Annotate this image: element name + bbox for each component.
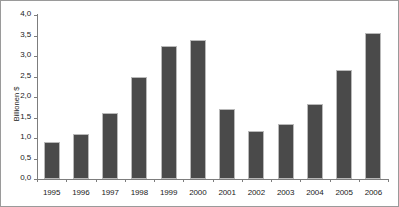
x-axis-tick-mark [213,179,214,182]
x-axis-tick-label-1997: 1997 [96,188,125,197]
bar-slot [154,15,183,179]
bar-1996[interactable] [73,134,89,179]
x-axis-tick-label-2003: 2003 [271,188,300,197]
bar-1997[interactable] [102,113,118,179]
bar-slot [242,15,271,179]
y-axis-tick-label: 3,5 [20,30,31,39]
x-axis-tick-label-1998: 1998 [125,188,154,197]
x-axis-tick-mark [300,179,301,182]
x-axis-tick-label-2002: 2002 [242,188,271,197]
bar-2003[interactable] [278,124,294,179]
bar-slot [66,15,95,179]
x-axis-tick-mark [66,179,67,182]
x-axis-tick-label-2001: 2001 [213,188,242,197]
bar-1995[interactable] [44,142,60,179]
x-axis-tick-mark [271,179,272,182]
bar-slot [359,15,388,179]
x-axis-ticks: 1995199619971998199920002001200220032004… [37,179,389,207]
bar-2002[interactable] [248,131,264,179]
x-axis-tick-label-2006: 2006 [359,188,388,197]
x-axis-tick-mark [359,179,360,182]
bar-slot [271,15,300,179]
bar-slot [213,15,242,179]
x-axis-tick-mark [242,179,243,182]
x-axis-tick-label-1996: 1996 [66,188,95,197]
bar-2005[interactable] [336,70,352,179]
y-axis-tick-label: 2,5 [20,71,31,80]
bar-slot [300,15,329,179]
x-axis-tick-mark [37,179,38,182]
bar-2001[interactable] [219,109,235,179]
x-axis-tick-mark [388,179,389,182]
x-axis-tick-mark [96,179,97,182]
bar-2006[interactable] [365,33,381,179]
y-axis-tick-label: 1,0 [20,132,31,141]
x-axis-tick-mark [154,179,155,182]
bar-slot [125,15,154,179]
y-axis-tick-label: 2,0 [20,91,31,100]
x-axis-tick-label-1999: 1999 [154,188,183,197]
x-axis-tick-mark [183,179,184,182]
x-axis-tick-label-2000: 2000 [183,188,212,197]
x-axis-tick-mark [330,179,331,182]
x-axis-tick-label-2005: 2005 [330,188,359,197]
x-axis-tick-label-1995: 1995 [37,188,66,197]
bars-layer [37,15,388,179]
bar-2004[interactable] [307,104,323,179]
bar-2000[interactable] [190,40,206,179]
bar-chart: Billionen $ 0,00,51,01,52,02,53,03,54,0 … [0,0,399,207]
x-axis-tick-mark [125,179,126,182]
bar-1998[interactable] [131,77,147,180]
y-axis-tick-label: 0,0 [20,173,31,182]
y-axis-tick-label: 0,5 [20,153,31,162]
y-axis-tick-label: 1,5 [20,112,31,121]
bar-slot [183,15,212,179]
bar-slot [330,15,359,179]
bar-slot [37,15,66,179]
x-axis-tick-label-2004: 2004 [300,188,329,197]
y-axis-tick-label: 3,0 [20,50,31,59]
y-axis-tick-label: 4,0 [20,9,31,18]
bar-slot [96,15,125,179]
bar-1999[interactable] [161,46,177,179]
